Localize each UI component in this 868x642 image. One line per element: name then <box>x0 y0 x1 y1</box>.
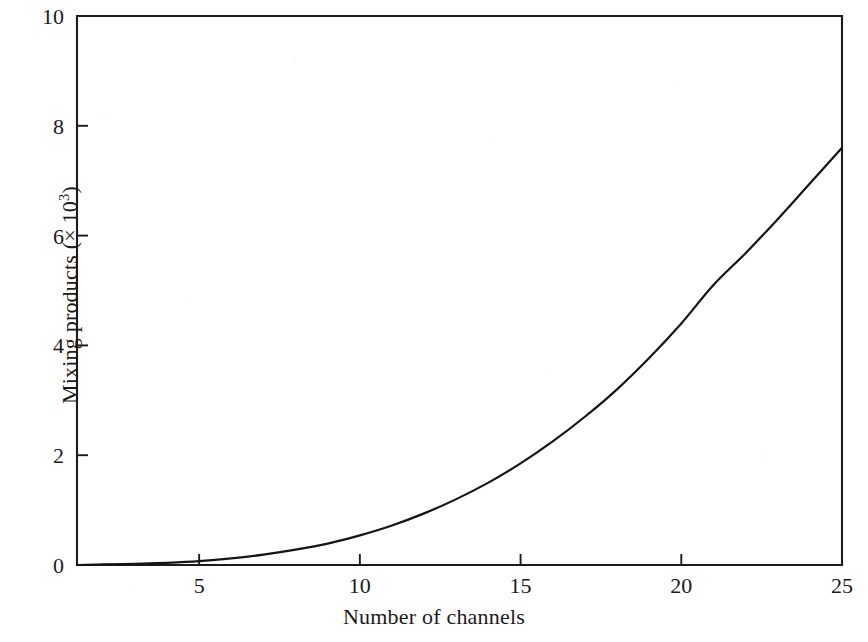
y-axis-title: Mixing products (× 103) <box>57 186 82 404</box>
x-axis-tick-labels: 510152025 <box>194 573 853 598</box>
x-tick-label-20: 20 <box>670 573 692 598</box>
plot-area: 0246810 510152025 <box>0 0 868 642</box>
y-axis-title-container: Mixing products (× 103) <box>57 15 83 575</box>
x-tick-label-15: 15 <box>510 573 532 598</box>
x-axis-ticks <box>199 554 842 565</box>
y-axis-title-suffix: ) <box>57 186 82 194</box>
x-tick-label-10: 10 <box>349 573 371 598</box>
y-axis-title-prefix: Mixing products (× 10 <box>57 201 82 404</box>
chart-figure: 0246810 510152025 Mixing products (× 103… <box>0 0 868 642</box>
y-axis-title-exponent: 3 <box>56 194 72 201</box>
x-axis-title: Number of channels <box>0 604 868 630</box>
data-series-curve <box>77 148 842 565</box>
x-tick-label-25: 25 <box>831 573 853 598</box>
x-tick-label-5: 5 <box>194 573 205 598</box>
